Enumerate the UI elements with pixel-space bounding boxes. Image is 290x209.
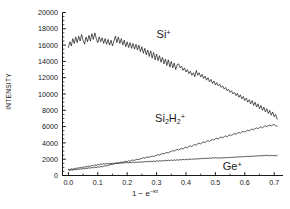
x-tick-label: 0.3 [152,178,162,187]
series-label-si2h2-plus: Si2H2+ [155,113,185,124]
y-tick-label: 14000 [38,57,58,66]
y-tick-label: 16000 [38,41,58,50]
data-curves [68,33,277,171]
x-tick-label: 0.0 [63,178,73,187]
y-axis-title: INTENSITY [5,62,12,122]
curve-ge-plus [68,155,277,170]
y-tick-label: 8000 [42,106,58,115]
series-label-ge-plus: Ge+ [223,161,242,172]
y-tick-label: 12000 [38,73,58,82]
plot-canvas: 0200040006000800010000120001400016000180… [0,0,290,209]
x-tick-label: 0.2 [122,178,132,187]
x-tick-label: 0.6 [240,178,250,187]
y-tick-label: 10000 [38,90,58,99]
y-tick-label: 20000 [38,8,58,17]
x-tick-label: 0.1 [93,178,103,187]
x-tick-label: 0.4 [181,178,191,187]
x-axis-title-base: 1 − e [132,189,150,198]
y-tick-label: 6000 [42,122,58,131]
x-tick-label: 0.5 [210,178,220,187]
curve-si2h2-plus [68,124,277,170]
x-axis-title: 1 − e−κτ [0,188,290,198]
chart-figure: 0200040006000800010000120001400016000180… [0,0,290,209]
x-tick-label: 0.7 [269,178,279,187]
y-tick-label: 18000 [38,24,58,33]
y-tick-label: 2000 [42,155,58,164]
y-tick-label: 0 [54,171,58,180]
y-tick-label: 4000 [42,139,58,148]
x-axis-title-exponent: −κτ [150,188,158,194]
series-label-si-plus: Si+ [157,29,171,40]
curve-si-plus [68,33,277,119]
